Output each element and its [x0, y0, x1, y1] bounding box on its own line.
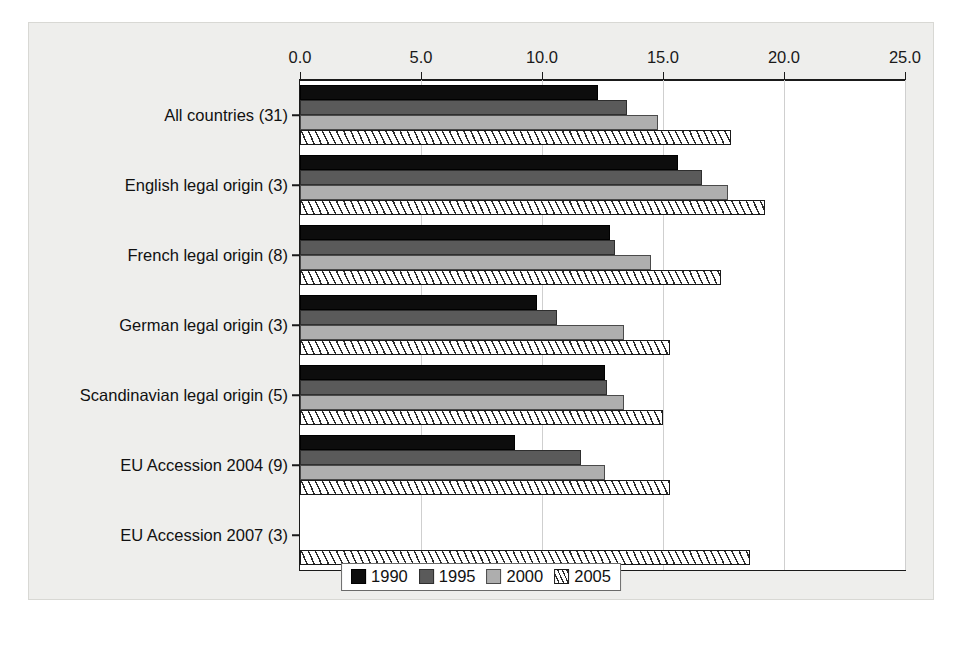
- bar-1990: [300, 365, 605, 380]
- x-tick-label: 5.0: [410, 48, 433, 67]
- y-tick: [292, 114, 300, 116]
- x-tick-label: 15.0: [647, 48, 679, 67]
- category-label: German legal origin (3): [119, 316, 288, 335]
- category-label: Scandinavian legal origin (5): [80, 386, 288, 405]
- x-tick-label: 25.0: [889, 48, 921, 67]
- x-tick: [663, 72, 664, 79]
- x-tick-label: 20.0: [768, 48, 800, 67]
- category-label: EU Accession 2004 (9): [120, 456, 288, 475]
- x-tick: [905, 72, 906, 79]
- bar-1995: [300, 310, 557, 325]
- y-tick: [292, 534, 300, 536]
- x-tick-label: 10.0: [526, 48, 558, 67]
- legend-swatch-1995: [419, 569, 434, 584]
- bar-1990: [300, 85, 598, 100]
- legend-label: 1990: [371, 567, 408, 586]
- category-label: French legal origin (8): [128, 246, 289, 265]
- bar-1990: [300, 435, 515, 450]
- legend-item-2000: 2000: [487, 567, 544, 586]
- bar-1995: [300, 170, 702, 185]
- category-label: EU Accession 2007 (3): [120, 526, 288, 545]
- gridline: [905, 80, 906, 570]
- bar-1995: [300, 380, 607, 395]
- category-label: English legal origin (3): [125, 176, 288, 195]
- bar-2005: [300, 480, 670, 495]
- legend-swatch-1990: [351, 569, 366, 584]
- legend-label: 2000: [507, 567, 544, 586]
- bar-2000: [300, 395, 624, 410]
- bar-2000: [300, 255, 651, 270]
- x-tick-label: 0.0: [289, 48, 312, 67]
- chart-legend: 1990199520002005: [341, 563, 621, 591]
- bar-2005: [300, 130, 731, 145]
- bar-1990: [300, 225, 610, 240]
- legend-label: 1995: [439, 567, 476, 586]
- y-tick: [292, 184, 300, 186]
- bar-2005: [300, 410, 663, 425]
- bar-1990: [300, 155, 678, 170]
- x-tick: [300, 72, 301, 79]
- x-tick: [784, 72, 785, 79]
- bar-1995: [300, 100, 627, 115]
- bar-group: French legal origin (8): [300, 220, 905, 290]
- y-tick: [292, 324, 300, 326]
- x-tick: [421, 72, 422, 79]
- y-tick: [292, 254, 300, 256]
- bar-2000: [300, 185, 728, 200]
- bar-2000: [300, 115, 658, 130]
- bar-2005: [300, 200, 765, 215]
- category-label: All countries (31): [164, 106, 288, 125]
- bar-group: EU Accession 2007 (3): [300, 500, 905, 570]
- bar-2000: [300, 325, 624, 340]
- x-tick: [542, 72, 543, 79]
- bar-1990: [300, 295, 537, 310]
- legend-swatch-2000: [487, 569, 502, 584]
- legend-item-1990: 1990: [351, 567, 408, 586]
- bar-2005: [300, 270, 721, 285]
- chart-figure: 0.05.010.015.020.025.0 All countries (31…: [28, 22, 934, 600]
- legend-item-1995: 1995: [419, 567, 476, 586]
- bar-2005: [300, 340, 670, 355]
- legend-label: 2005: [574, 567, 611, 586]
- bar-group: German legal origin (3): [300, 290, 905, 360]
- plot-area: 0.05.010.015.020.025.0 All countries (31…: [299, 79, 906, 571]
- y-tick: [292, 394, 300, 396]
- legend-swatch-2005: [554, 569, 569, 584]
- y-tick: [292, 464, 300, 466]
- bar-group: Scandinavian legal origin (5): [300, 360, 905, 430]
- bar-1995: [300, 450, 581, 465]
- bar-group: EU Accession 2004 (9): [300, 430, 905, 500]
- bar-group: English legal origin (3): [300, 150, 905, 220]
- bar-1995: [300, 240, 615, 255]
- bar-2000: [300, 465, 605, 480]
- legend-item-2005: 2005: [554, 567, 611, 586]
- bar-group: All countries (31): [300, 80, 905, 150]
